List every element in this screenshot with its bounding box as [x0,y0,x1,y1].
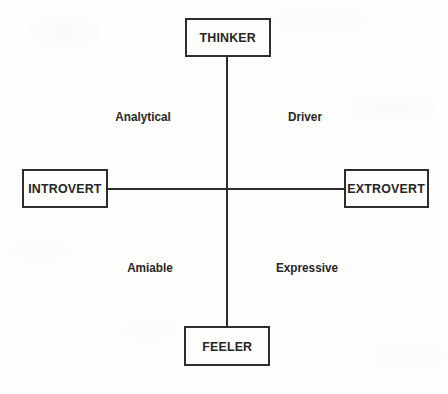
horizontal-axis-line [107,188,345,190]
quadrant-label-driver: Driver [288,110,322,124]
quadrant-label-expressive: Expressive [276,261,338,275]
node-box-extrovert[interactable]: EXTROVERT [344,169,429,208]
node-label-extrovert: EXTROVERT [348,181,426,196]
node-box-feeler[interactable]: FEELER [184,326,270,366]
quadrant-label-amiable: Amiable [127,261,173,275]
quadrant-label-analytical: Analytical [115,110,171,124]
node-label-introvert: INTROVERT [28,181,101,196]
node-label-feeler: FEELER [202,339,252,354]
diagram-canvas: THINKER INTROVERT EXTROVERT FEELER Analy… [0,0,448,394]
node-box-thinker[interactable]: THINKER [185,18,271,57]
vertical-axis-line [226,57,228,327]
node-box-introvert[interactable]: INTROVERT [22,169,108,208]
node-label-thinker: THINKER [200,30,256,45]
